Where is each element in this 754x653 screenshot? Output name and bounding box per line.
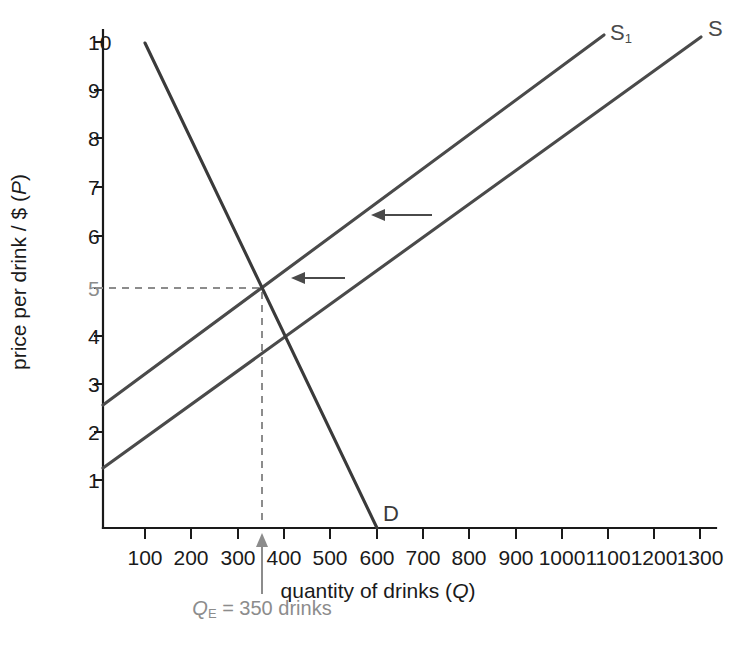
curve-label-supply-shifted-subscript: 1 <box>625 31 632 46</box>
x-tick-label-600: 600 <box>359 547 394 568</box>
x-tick-label-1000: 1000 <box>539 547 586 568</box>
x-tick-label-1200: 1200 <box>631 547 678 568</box>
y-tick-label-5: 5 <box>88 278 100 299</box>
supply-shift-arrow-upper <box>371 209 432 221</box>
y-tick-label-3: 3 <box>88 374 100 395</box>
x-tick-label-300: 300 <box>220 547 255 568</box>
y-tick-label-4: 4 <box>88 326 100 347</box>
curve-demand <box>145 43 377 528</box>
x-axis-ticks <box>145 528 700 539</box>
x-axis-title-variable: Q <box>452 579 468 602</box>
y-tick-label-7: 7 <box>88 177 100 198</box>
y-axis-ticks <box>94 42 103 480</box>
y-axis-title-suffix: ) <box>7 174 30 181</box>
curve-supply-shifted <box>103 35 604 405</box>
y-tick-label-6: 6 <box>88 226 100 247</box>
x-tick-label-400: 400 <box>266 547 301 568</box>
y-axis-title: price per drink / $ (P) <box>8 174 29 370</box>
x-axis-title-suffix: ) <box>468 579 475 602</box>
x-tick-label-700: 700 <box>405 547 440 568</box>
curve-label-supply: S <box>708 18 723 40</box>
curve-label-supply-shifted: S1 <box>610 22 632 44</box>
x-tick-label-500: 500 <box>312 547 347 568</box>
curve-supply <box>103 37 701 468</box>
y-tick-label-8: 8 <box>88 128 100 149</box>
curve-label-demand: D <box>383 503 399 525</box>
equilibrium-guides <box>96 288 262 524</box>
equilibrium-quantity-annotation: QE = 350 drinks <box>192 598 331 618</box>
equilibrium-value: = 350 drinks <box>217 597 332 619</box>
axes-group <box>103 30 716 528</box>
y-axis-title-variable: P <box>7 181 30 195</box>
y-tick-label-10: 10 <box>88 32 111 53</box>
supply-shift-arrow-lower <box>291 272 345 284</box>
y-tick-label-9: 9 <box>88 80 100 101</box>
supply-demand-figure: 10 9 8 7 6 5 4 3 2 1 100 200 300 400 500… <box>0 0 754 653</box>
x-tick-label-100: 100 <box>127 547 162 568</box>
y-tick-label-2: 2 <box>88 422 100 443</box>
x-tick-label-1100: 1100 <box>585 547 630 568</box>
x-tick-label-900: 900 <box>498 547 533 568</box>
equilibrium-variable: Q <box>192 597 208 619</box>
y-tick-label-1: 1 <box>88 470 100 491</box>
y-axis-title-text: price per drink / $ ( <box>7 195 30 370</box>
x-tick-label-800: 800 <box>451 547 486 568</box>
x-tick-label-200: 200 <box>173 547 208 568</box>
curve-label-supply-shifted-text: S <box>610 20 625 45</box>
x-tick-label-1300: 1300 <box>677 547 724 568</box>
equilibrium-variable-subscript: E <box>208 606 217 621</box>
